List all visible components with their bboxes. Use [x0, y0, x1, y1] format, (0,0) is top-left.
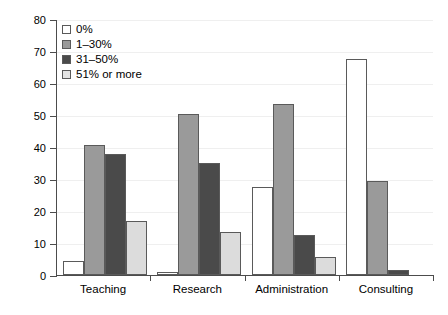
bar-group	[252, 19, 336, 275]
bar	[273, 104, 294, 275]
x-axis-tick	[150, 276, 151, 281]
y-axis-tick-label: 10	[4, 239, 46, 250]
x-axis-label: Consulting	[339, 283, 433, 295]
y-axis-tick-label: 20	[4, 207, 46, 218]
y-axis-tick-label: 80	[4, 15, 46, 26]
legend-item-label: 51% or more	[76, 68, 142, 80]
legend-swatch-icon	[62, 40, 71, 49]
legend-item-label: 0%	[76, 23, 93, 35]
bar-group	[157, 19, 241, 275]
y-axis-tick-label: 70	[4, 47, 46, 58]
legend-item-label: 1–30%	[76, 38, 112, 50]
x-axis-tick	[339, 276, 340, 281]
bar	[388, 270, 409, 275]
y-axis-tick	[50, 212, 56, 213]
y-axis-tick	[50, 20, 56, 21]
legend-item: 0%	[62, 22, 142, 36]
bar	[63, 261, 84, 275]
bar	[252, 187, 273, 275]
bar	[294, 235, 315, 275]
y-axis-tick	[50, 148, 56, 149]
x-axis-label: Administration	[245, 283, 339, 295]
y-axis-tick	[50, 244, 56, 245]
y-axis-tick	[50, 276, 56, 277]
legend-swatch-icon	[62, 55, 71, 64]
bar	[315, 257, 336, 275]
x-axis-label: Teaching	[56, 283, 150, 295]
bar	[220, 232, 241, 275]
legend-item: 51% or more	[62, 67, 142, 81]
legend-item-label: 31–50%	[76, 53, 118, 65]
x-axis-tick	[433, 276, 434, 281]
x-axis-tick	[245, 276, 246, 281]
x-axis-label: Research	[150, 283, 244, 295]
legend-item: 31–50%	[62, 52, 142, 66]
y-axis-tick-label: 0	[4, 271, 46, 282]
grouped-bar-chart: Percent valid answers 01020304050607080 …	[0, 0, 448, 315]
bar	[199, 163, 220, 275]
y-axis-tick-label: 30	[4, 175, 46, 186]
bar-group	[346, 19, 430, 275]
bar	[84, 145, 105, 275]
bar	[346, 59, 367, 275]
legend-swatch-icon	[62, 70, 71, 79]
legend-swatch-icon	[62, 25, 71, 34]
bar	[178, 114, 199, 275]
y-axis-tick	[50, 180, 56, 181]
bar	[126, 221, 147, 275]
y-axis-tick	[50, 52, 56, 53]
bar	[157, 272, 178, 275]
y-axis-tick-label: 50	[4, 111, 46, 122]
legend-item: 1–30%	[62, 37, 142, 51]
y-axis-tick	[50, 116, 56, 117]
bar	[367, 181, 388, 275]
legend: 0%1–30%31–50%51% or more	[62, 22, 142, 82]
bar	[105, 154, 126, 275]
y-axis-tick-label: 60	[4, 79, 46, 90]
y-axis-tick	[50, 84, 56, 85]
y-axis-tick-label: 40	[4, 143, 46, 154]
